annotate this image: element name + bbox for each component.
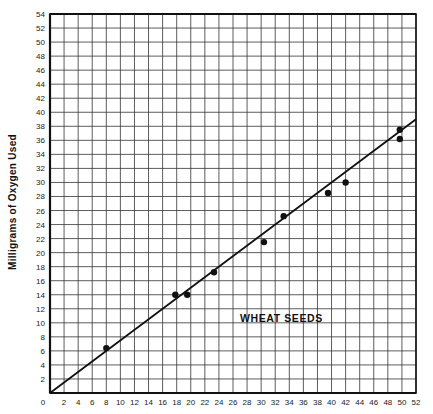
wheat-seeds-annotation: WHEAT SEEDS xyxy=(240,312,323,324)
y-tick-label: 36 xyxy=(36,136,45,145)
y-tick-label: 32 xyxy=(36,164,45,173)
y-tick-label: 44 xyxy=(36,80,45,89)
x-tick-label: 0 xyxy=(41,398,46,407)
y-tick-label: 50 xyxy=(36,38,45,47)
y-tick-label: 18 xyxy=(36,263,45,272)
y-tick-label: 52 xyxy=(36,24,45,33)
x-tick-label: 36 xyxy=(299,398,308,407)
y-tick-label: 40 xyxy=(36,108,45,117)
data-point xyxy=(280,213,286,219)
data-point xyxy=(325,190,331,196)
x-tick-label: 42 xyxy=(341,398,350,407)
x-tick-label: 32 xyxy=(271,398,280,407)
y-tick-label: 46 xyxy=(36,66,45,75)
y-tick-label: 30 xyxy=(36,178,45,187)
data-point xyxy=(103,345,109,351)
y-tick-label: 38 xyxy=(36,122,45,131)
data-point xyxy=(172,292,178,298)
x-tick-label: 18 xyxy=(172,398,181,407)
y-tick-label: 42 xyxy=(36,94,45,103)
data-point xyxy=(261,239,267,245)
x-tick-label: 26 xyxy=(229,398,238,407)
x-tick-label: 46 xyxy=(369,398,378,407)
x-tick-label: 4 xyxy=(76,398,81,407)
x-tick-label: 48 xyxy=(383,398,392,407)
data-point xyxy=(184,292,190,298)
data-point xyxy=(397,127,403,133)
y-tick-label: 2 xyxy=(41,375,46,384)
x-tick-label: 10 xyxy=(116,398,125,407)
x-tick-label: 34 xyxy=(285,398,294,407)
y-tick-label: 34 xyxy=(36,150,45,159)
oxygen-usage-chart: 2468101214161820222426283032343638404244… xyxy=(0,0,433,414)
y-tick-label: 26 xyxy=(36,207,45,216)
y-tick-label: 10 xyxy=(36,319,45,328)
x-tick-label: 52 xyxy=(412,398,421,407)
y-tick-label: 20 xyxy=(36,249,45,258)
y-tick-label: 16 xyxy=(36,277,45,286)
x-tick-label: 2 xyxy=(62,398,67,407)
x-tick-label: 50 xyxy=(397,398,406,407)
y-tick-label: 4 xyxy=(41,361,46,370)
data-point xyxy=(397,136,403,142)
y-tick-label: 8 xyxy=(41,333,46,342)
x-tick-label: 12 xyxy=(130,398,139,407)
x-tick-label: 30 xyxy=(257,398,266,407)
y-tick-label: 22 xyxy=(36,235,45,244)
y-tick-label: 54 xyxy=(36,10,45,19)
y-tick-label: 6 xyxy=(41,347,46,356)
x-axis-ticks: 0246810121416182022242628303234363840424… xyxy=(41,398,421,407)
y-tick-label: 48 xyxy=(36,52,45,61)
grid-lines xyxy=(50,14,416,393)
y-tick-label: 28 xyxy=(36,192,45,201)
y-tick-label: 14 xyxy=(36,291,45,300)
x-tick-label: 20 xyxy=(186,398,195,407)
x-tick-label: 6 xyxy=(90,398,95,407)
x-tick-label: 22 xyxy=(200,398,209,407)
y-axis-ticks: 2468101214161820222426283032343638404244… xyxy=(36,10,45,384)
x-tick-label: 28 xyxy=(243,398,252,407)
x-tick-label: 38 xyxy=(313,398,322,407)
x-tick-label: 44 xyxy=(355,398,364,407)
data-point xyxy=(211,269,217,275)
x-tick-label: 8 xyxy=(104,398,109,407)
y-tick-label: 12 xyxy=(36,305,45,314)
x-tick-label: 24 xyxy=(214,398,223,407)
y-tick-label: 24 xyxy=(36,221,45,230)
x-tick-label: 16 xyxy=(158,398,167,407)
x-tick-label: 40 xyxy=(327,398,336,407)
x-tick-label: 14 xyxy=(144,398,153,407)
y-axis-label: Milligrams of Oxygen Used xyxy=(7,134,18,270)
data-point xyxy=(342,179,348,185)
